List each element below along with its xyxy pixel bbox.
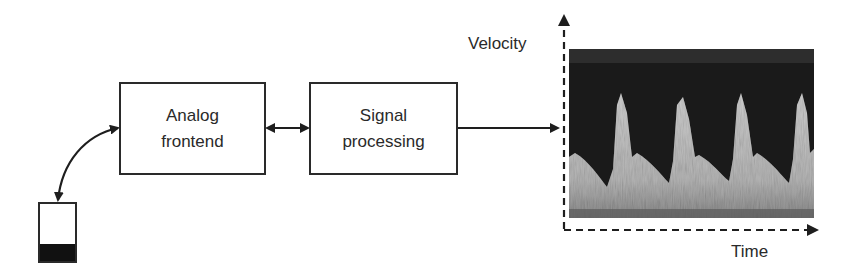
x-axis-arrowhead-icon bbox=[807, 224, 819, 236]
diagram-canvas: Analog frontend Signal processing Veloci… bbox=[0, 0, 841, 279]
spectrogram-waveform bbox=[569, 49, 814, 218]
y-axis-arrowhead-icon bbox=[558, 14, 570, 26]
analog-frontend-label-line-1: Analog bbox=[161, 103, 223, 129]
battery-to-frontend-arrow bbox=[58, 128, 118, 200]
battery-charge-level bbox=[40, 244, 75, 261]
signal-processing-label-line-2: processing bbox=[342, 129, 424, 155]
y-axis-label: Velocity bbox=[468, 34, 527, 54]
signal-processing-block: Signal processing bbox=[309, 82, 458, 175]
doppler-spectrogram-image bbox=[569, 49, 814, 218]
analog-frontend-block: Analog frontend bbox=[119, 82, 266, 175]
signal-processing-label-line-1: Signal bbox=[342, 103, 424, 129]
x-axis-label: Time bbox=[731, 242, 768, 262]
analog-frontend-label-line-2: frontend bbox=[161, 129, 223, 155]
battery-icon bbox=[38, 202, 77, 263]
